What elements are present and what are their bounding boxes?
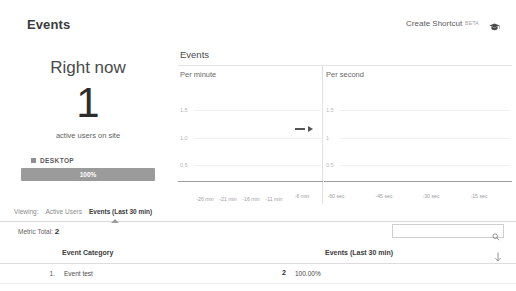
gridline xyxy=(194,138,321,139)
row-event-category[interactable]: Event test xyxy=(64,270,93,277)
viewing-label: Viewing: xyxy=(14,208,38,215)
arrow-right-icon xyxy=(308,126,313,132)
row-events-count: 2 xyxy=(272,269,286,276)
gridline xyxy=(194,165,321,166)
metric-total-label: Metric Total: xyxy=(18,228,53,235)
device-legend-row: DESKTOP xyxy=(0,157,176,164)
charts-title: Events xyxy=(180,49,209,60)
create-shortcut-label: Create Shortcut xyxy=(406,19,462,29)
x-tick-label: -60 sec xyxy=(327,193,344,199)
x-tick-label: -30 sec xyxy=(422,193,439,199)
y-tick-label: 1.5 xyxy=(326,107,334,113)
metric-total-value: 2 xyxy=(55,227,59,236)
x-tick-label: -45 sec xyxy=(375,193,392,199)
metric-total: Metric Total: 2 xyxy=(18,227,59,236)
arrow-dash-icon xyxy=(295,128,305,130)
events-table: Event Category Events (Last 30 min) 1. E… xyxy=(0,244,516,284)
device-share-percent: 100% xyxy=(21,171,155,178)
viewing-tabs-bar: Viewing: Active Users Events (Last 30 mi… xyxy=(0,206,516,222)
x-tick-label: -6 min xyxy=(295,193,309,199)
y-tick-label: 0.5 xyxy=(180,162,188,168)
y-tick-label: 0.5 xyxy=(326,162,334,168)
gridline xyxy=(340,165,510,166)
per-minute-chart: Per minute 1.5 1.0 0.5 -26 min -21 min -… xyxy=(178,66,323,204)
right-now-title: Right now xyxy=(0,58,176,78)
y-tick-label: 1.0 xyxy=(180,135,188,141)
column-header-event-category[interactable]: Event Category xyxy=(62,249,113,256)
row-rank: 1. xyxy=(45,270,55,277)
gridline xyxy=(340,110,510,111)
per-second-plot: 1.5 1 0.5 xyxy=(324,83,512,182)
live-cursor-indicator xyxy=(295,126,313,132)
x-tick-label: -11 min xyxy=(266,196,283,202)
per-second-chart: Per second 1.5 1 0.5 -60 sec -45 sec -30… xyxy=(324,66,512,204)
create-shortcut-button[interactable]: Create Shortcut BETA xyxy=(406,19,500,35)
page-header: Events Create Shortcut BETA xyxy=(0,0,516,40)
table-header-row: Event Category Events (Last 30 min) xyxy=(0,244,516,264)
x-tick-label: -26 min xyxy=(196,196,213,202)
x-tick-label: -15 sec xyxy=(470,193,487,199)
column-header-events[interactable]: Events (Last 30 min) xyxy=(325,249,393,256)
row-events-percent: 100.00% xyxy=(295,270,321,277)
per-minute-plot: 1.5 1.0 0.5 xyxy=(178,83,323,182)
y-tick-label: 1 xyxy=(326,135,329,141)
tab-active-users[interactable]: Active Users xyxy=(45,208,81,215)
active-users-caption: active users on site xyxy=(0,131,176,140)
x-tick-label: -21 min xyxy=(219,196,236,202)
table-row[interactable]: 1. Event test 2 100.00% xyxy=(0,264,516,284)
gridline xyxy=(340,138,510,139)
search-input[interactable] xyxy=(396,227,488,237)
per-minute-label: Per minute xyxy=(180,70,216,79)
realtime-panel: Right now 1 active users on site DESKTOP… xyxy=(0,40,516,205)
metric-total-row: Metric Total: 2 xyxy=(0,221,516,243)
search-icon[interactable] xyxy=(492,227,500,245)
beta-badge: BETA xyxy=(465,19,479,28)
per-second-label: Per second xyxy=(326,70,364,79)
device-label: DESKTOP xyxy=(40,157,74,164)
right-now-panel: Right now 1 active users on site DESKTOP… xyxy=(0,40,176,205)
graduation-cap-icon[interactable] xyxy=(489,17,500,35)
y-tick-label: 1.5 xyxy=(180,107,188,113)
x-tick-label: -16 min xyxy=(242,196,259,202)
table-search-box[interactable] xyxy=(392,224,504,238)
active-users-count: 1 xyxy=(0,81,176,125)
gridline xyxy=(194,110,321,111)
device-share-bar: 100% xyxy=(21,168,155,181)
page-title: Events xyxy=(27,17,70,32)
events-charts: Events Per minute 1.5 1.0 0.5 -26 min -2… xyxy=(176,40,516,205)
tab-events-last-30-min[interactable]: Events (Last 30 min) xyxy=(89,208,152,215)
device-swatch-icon xyxy=(31,158,36,163)
